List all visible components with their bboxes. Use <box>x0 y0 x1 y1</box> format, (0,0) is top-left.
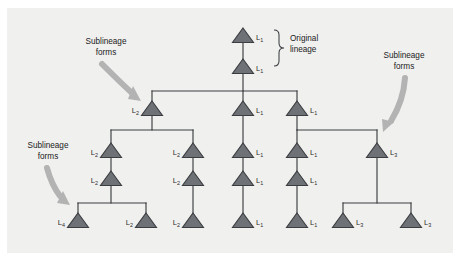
lineage-node: L1 <box>287 101 318 116</box>
node-label-subscript: 1 <box>260 180 263 186</box>
node-label-subscript: 1 <box>260 37 263 43</box>
triangle-icon <box>101 171 122 186</box>
node-label: L3 <box>390 148 397 158</box>
node-label: L3 <box>424 218 431 228</box>
node-label: L1 <box>310 148 317 158</box>
lineage-node: L2 <box>91 143 122 158</box>
node-label: L2 <box>173 176 180 186</box>
sublineage-left-bottom-label-line2: forms <box>38 152 58 161</box>
triangle-icon <box>101 143 122 158</box>
node-label-subscript: 2 <box>95 152 98 158</box>
lineage-node: L1 <box>233 213 264 228</box>
lineage-node: L1 <box>233 59 264 74</box>
node-label: L2 <box>132 106 139 116</box>
node-label: L1 <box>310 218 317 228</box>
lineage-node: L2 <box>132 101 163 116</box>
node-label: L2 <box>173 148 180 158</box>
lineage-node: L1 <box>233 171 264 186</box>
lineage-node: L1 <box>287 143 318 158</box>
sublineage-left-top-label-line1: Sublineage <box>86 37 127 46</box>
triangle-icon <box>367 143 388 158</box>
triangle-icon <box>233 28 254 43</box>
node-label: L1 <box>256 218 263 228</box>
node-label-subscript: 3 <box>394 152 397 158</box>
lineage-node: L1 <box>287 171 318 186</box>
node-label-subscript: 2 <box>177 180 180 186</box>
triangle-icon <box>401 213 422 228</box>
node-label-subscript: 2 <box>177 152 180 158</box>
lineage-node: L2 <box>126 213 157 228</box>
node-label: L1 <box>310 106 317 116</box>
node-label-subscript: 1 <box>314 180 317 186</box>
node-label: L3 <box>356 218 363 228</box>
sublineage-right-annotation: Sublineage forms <box>382 51 425 132</box>
triangle-icon <box>233 171 254 186</box>
sublineage-left-top-label-line2: forms <box>96 48 116 57</box>
node-label-subscript: 1 <box>260 110 263 116</box>
lineage-node: L2 <box>173 143 204 158</box>
lineage-node: L1 <box>287 213 318 228</box>
sublineage-left-top-annotation: Sublineage forms <box>86 37 141 101</box>
triangle-icon <box>68 213 89 228</box>
diagram-canvas: L1L1L2L2L2L4L2L2L2L2L1L1L1L1L1L1L1L1L3L3… <box>0 0 460 261</box>
node-label-subscript: 1 <box>314 222 317 228</box>
lineage-node: L1 <box>233 28 264 43</box>
lineage-node: L1 <box>233 143 264 158</box>
triangle-icon <box>287 101 308 116</box>
node-label: L1 <box>256 148 263 158</box>
lineage-node: L2 <box>173 213 204 228</box>
original-lineage-label-line2: lineage <box>290 45 317 54</box>
brace-icon <box>274 30 284 66</box>
triangle-icon <box>287 213 308 228</box>
node-label: L1 <box>256 33 263 43</box>
node-label: L1 <box>310 176 317 186</box>
triangle-icon <box>287 171 308 186</box>
node-label-subscript: 3 <box>360 222 363 228</box>
node-label: L2 <box>91 176 98 186</box>
triangle-icon <box>183 143 204 158</box>
triangle-icon <box>233 59 254 74</box>
sublineage-left-bottom-annotation: Sublineage forms <box>28 141 70 205</box>
sublineage-left-bottom-label-line1: Sublineage <box>28 141 69 150</box>
node-label-subscript: 2 <box>130 222 133 228</box>
lineage-node: L1 <box>233 101 264 116</box>
node-label: L2 <box>126 218 133 228</box>
triangle-icon <box>233 213 254 228</box>
triangle-icon <box>287 143 308 158</box>
triangle-icon <box>233 101 254 116</box>
lineage-nodes-group: L1L1L2L2L2L4L2L2L2L2L1L1L1L1L1L1L1L1L3L3… <box>58 28 431 228</box>
node-label: L1 <box>256 64 263 74</box>
node-label: L2 <box>91 148 98 158</box>
node-label-subscript: 1 <box>314 152 317 158</box>
lineage-node: L3 <box>333 213 364 228</box>
triangle-icon <box>183 213 204 228</box>
lineage-node: L3 <box>367 143 398 158</box>
node-label: L1 <box>256 176 263 186</box>
triangle-icon <box>142 101 163 116</box>
triangle-icon <box>233 143 254 158</box>
lineage-node: L2 <box>91 171 122 186</box>
node-label-subscript: 2 <box>177 222 180 228</box>
node-label: L1 <box>256 106 263 116</box>
triangle-icon <box>333 213 354 228</box>
node-label-subscript: 1 <box>260 152 263 158</box>
original-lineage-annotation: Original lineage <box>274 30 318 66</box>
sublineage-right-label-line2: forms <box>394 62 414 71</box>
node-label-subscript: 1 <box>260 222 263 228</box>
node-label: L2 <box>173 218 180 228</box>
triangle-icon <box>136 213 157 228</box>
node-label-subscript: 1 <box>314 110 317 116</box>
lineage-node: L4 <box>58 213 89 228</box>
triangle-icon <box>183 171 204 186</box>
curved-arrow-icon <box>102 64 132 93</box>
original-lineage-label-line1: Original <box>290 34 318 43</box>
curved-arrow-icon <box>391 78 405 121</box>
node-label-subscript: 1 <box>260 68 263 74</box>
node-label-subscript: 3 <box>428 222 431 228</box>
lineage-node: L3 <box>401 213 432 228</box>
sublineage-right-label-line1: Sublineage <box>384 51 425 60</box>
node-label-subscript: 2 <box>95 180 98 186</box>
node-label-subscript: 2 <box>136 110 139 116</box>
node-label-subscript: 4 <box>62 222 65 228</box>
curved-arrow-icon <box>47 168 60 196</box>
